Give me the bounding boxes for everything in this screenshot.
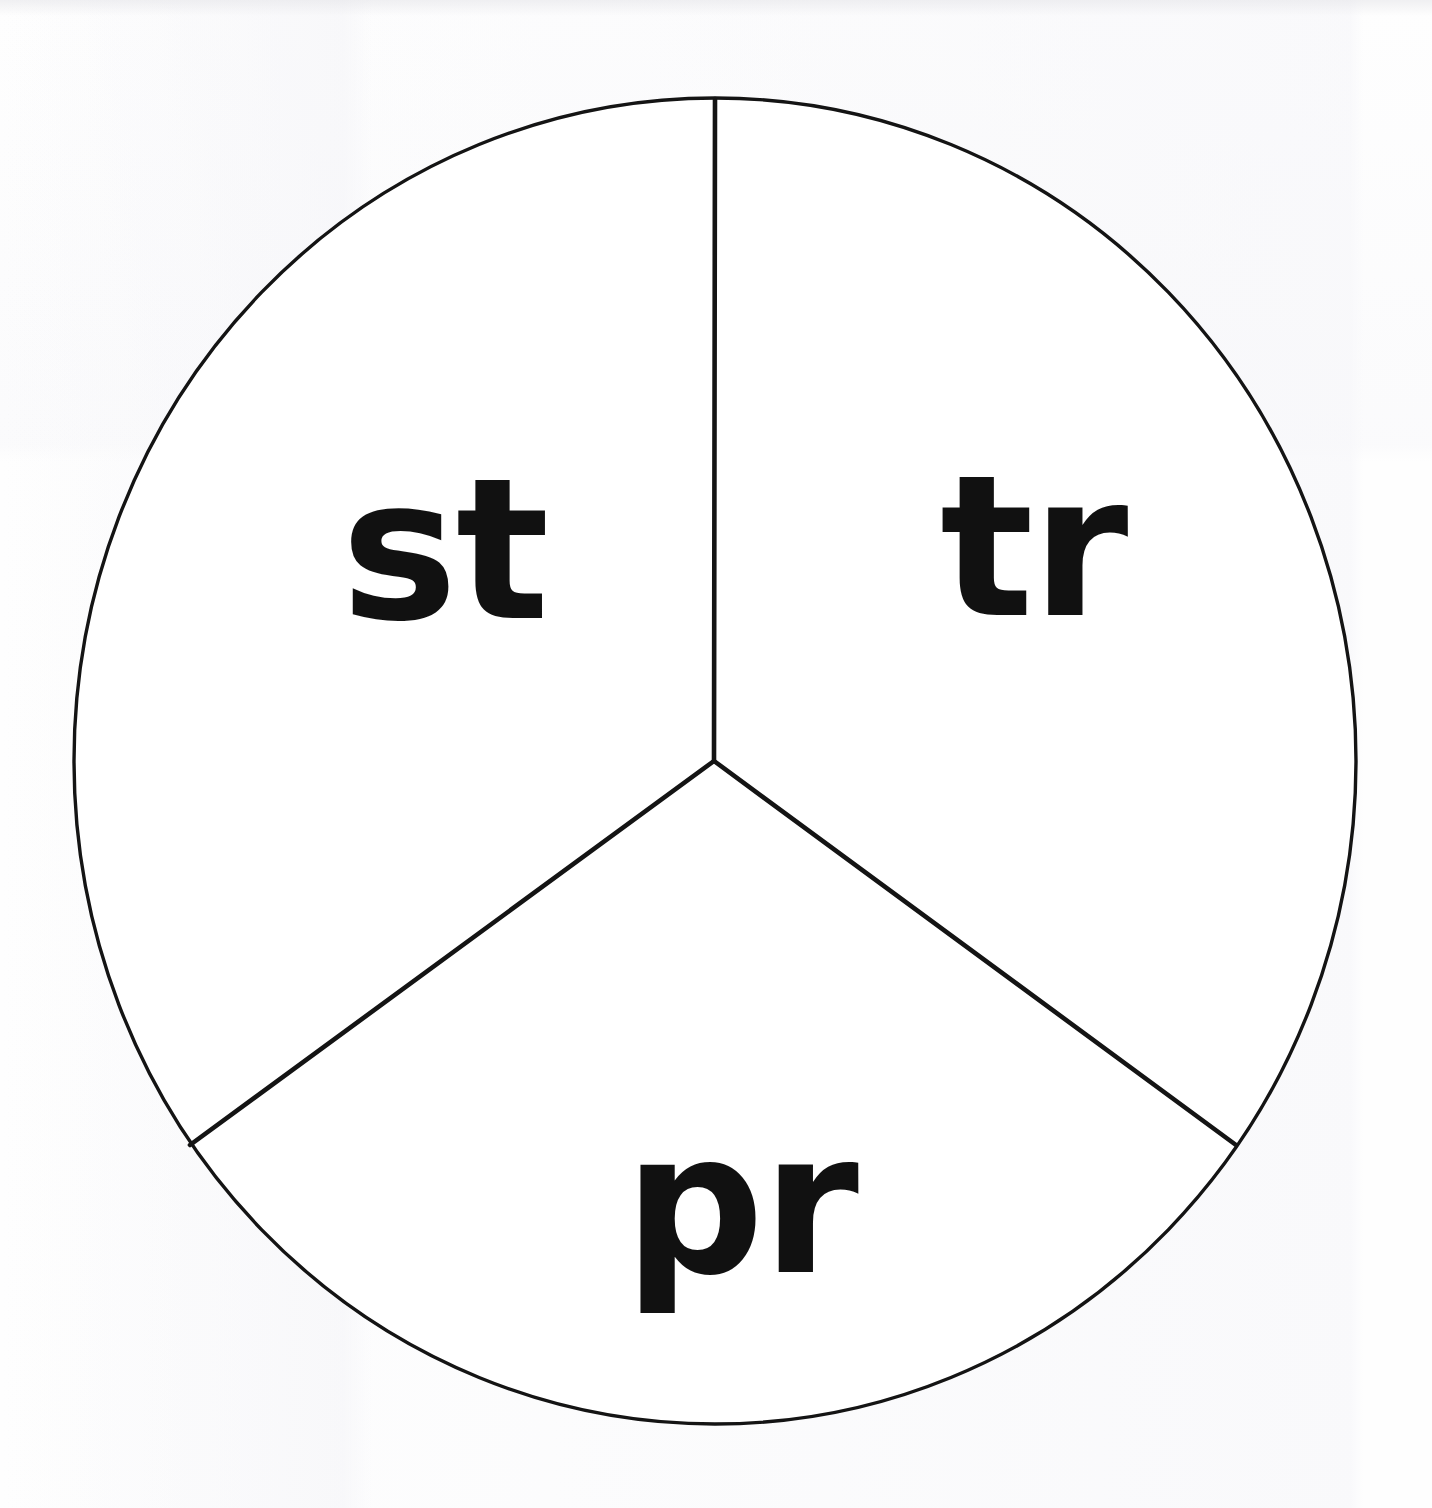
wheel-segment-label-st: st [341,452,547,648]
worksheet-page: st tr pr [0,0,1432,1508]
divider-spoke-top [714,99,715,761]
wheel-segment-label-tr: tr [940,449,1126,645]
wheel-segment-label-pr: pr [624,1106,857,1302]
